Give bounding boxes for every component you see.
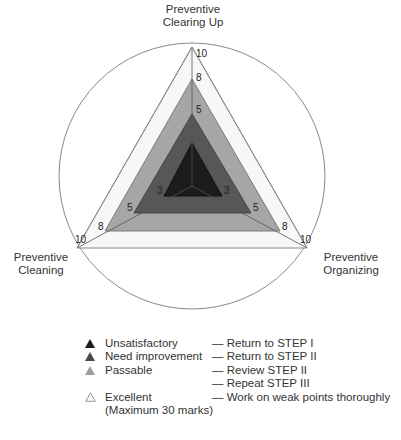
legend-item-unsatisfactory: Unsatisfactory Return to STEP I xyxy=(85,337,401,350)
tick-left-3: 3 xyxy=(157,186,163,196)
tick-top-8: 8 xyxy=(196,73,202,83)
legend-action: Review STEP II xyxy=(212,364,307,377)
triangle-radar-diagram: Preventive Clearing Up Preventive Cleani… xyxy=(0,0,401,330)
legend-item-passable: Passable Review STEP II xyxy=(85,364,401,377)
legend-item-excellent: Excellent Work on weak points thoroughly xyxy=(85,391,401,404)
tick-left-5: 5 xyxy=(127,203,133,213)
legend-note: (Maximum 30 marks) xyxy=(105,404,213,417)
legend: Unsatisfactory Return to STEP I Need imp… xyxy=(85,337,401,417)
legend-name: Excellent xyxy=(105,391,152,404)
outline-triangle-svg xyxy=(85,392,96,402)
filled-triangle-gray-icon xyxy=(85,366,95,375)
axis-label-preventive-clearing-up: Preventive Clearing Up xyxy=(143,3,243,29)
tick-right-3: 3 xyxy=(224,186,230,196)
tick-right-10: 10 xyxy=(300,235,311,245)
axis-label-line: Organizing xyxy=(305,264,397,277)
legend-action: Return to STEP II xyxy=(212,350,317,363)
legend-name: Need improvement xyxy=(105,350,202,363)
legend-action: Repeat STEP III xyxy=(212,377,310,390)
axis-label-preventive-cleaning: Preventive Cleaning xyxy=(0,251,82,277)
tick-right-5: 5 xyxy=(253,203,259,213)
legend-action: Work on weak points thoroughly xyxy=(212,391,390,404)
legend-item-need-improvement: Need improvement Return to STEP II xyxy=(85,350,401,363)
axis-label-line: Clearing Up xyxy=(143,16,243,29)
axis-label-line: Preventive xyxy=(305,251,397,264)
axis-label-preventive-organizing: Preventive Organizing xyxy=(305,251,397,277)
legend-name: Passable xyxy=(105,364,152,377)
tick-left-8: 8 xyxy=(98,222,104,232)
filled-triangle-black-icon xyxy=(85,339,95,348)
tick-top-10: 10 xyxy=(196,49,207,59)
tick-left-10: 10 xyxy=(75,235,86,245)
legend-action: Return to STEP I xyxy=(212,337,313,350)
tick-top-5: 5 xyxy=(196,105,202,115)
filled-triangle-darkgray-icon xyxy=(85,352,95,361)
axis-label-line: Preventive xyxy=(0,251,82,264)
axis-label-line: Preventive xyxy=(143,3,243,16)
legend-name: Unsatisfactory xyxy=(105,337,178,350)
tick-right-8: 8 xyxy=(282,222,288,232)
legend-item-repeat-step: Repeat STEP III xyxy=(85,377,401,390)
axis-label-line: Cleaning xyxy=(0,264,82,277)
legend-item-excellent-note: (Maximum 30 marks) xyxy=(85,404,401,417)
